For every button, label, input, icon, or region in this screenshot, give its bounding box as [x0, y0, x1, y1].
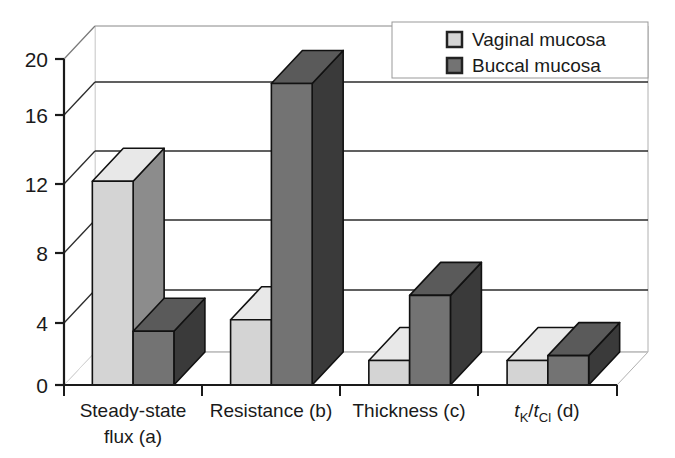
y-tick-label-4: 4	[36, 312, 48, 335]
legend-swatch-vaginal-mucosa	[447, 32, 462, 47]
y-axis: 20 16 12 8 4 0	[25, 48, 64, 397]
legend-label-vaginal-mucosa: Vaginal mucosa	[472, 29, 606, 50]
legend-label-buccal-mucosa: Buccal mucosa	[472, 55, 601, 76]
category-label-2: Thickness (c)	[353, 400, 466, 421]
y-tick-label-12: 12	[25, 173, 48, 196]
bar-front-face	[507, 361, 548, 385]
category-label-1: Resistance (b)	[210, 400, 333, 421]
category-label-0-line1: Steady-state	[80, 400, 187, 421]
y-tick-label-20: 20	[25, 48, 48, 71]
bar-buccal-mucosa-cat-1[interactable]	[271, 50, 343, 385]
left-wall	[64, 26, 95, 385]
legend: Vaginal mucosa Buccal mucosa	[392, 22, 648, 78]
bar-front-face	[231, 320, 272, 385]
category-label-3: tK/tCl (d)	[514, 400, 579, 425]
bar-front-face	[133, 331, 174, 385]
bar-front-face	[410, 295, 451, 385]
x-category-labels: Steady-state flux (a) Resistance (b) Thi…	[80, 400, 580, 447]
category-label-0-line2: flux (a)	[104, 426, 162, 447]
legend-swatch-buccal-mucosa	[447, 58, 462, 73]
bar-chart-figure: 20 16 12 8 4 0 Steady-state flux (a) Res…	[0, 0, 675, 458]
x-axis	[64, 385, 617, 396]
bar-front-face	[369, 361, 410, 385]
bar-side-face	[312, 50, 343, 385]
y-tick-label-8: 8	[36, 242, 48, 265]
bar-front-face	[271, 83, 312, 385]
bar-front-face	[548, 356, 589, 385]
y-tick-label-0: 0	[36, 374, 48, 397]
y-tick-label-16: 16	[25, 104, 48, 127]
bar-front-face	[92, 181, 133, 385]
chart-canvas: 20 16 12 8 4 0 Steady-state flux (a) Res…	[0, 0, 675, 458]
category-label-3-sub1: K	[520, 410, 529, 425]
category-label-3-tail: (d)	[551, 400, 580, 421]
category-label-3-sub2: Cl	[539, 410, 551, 425]
